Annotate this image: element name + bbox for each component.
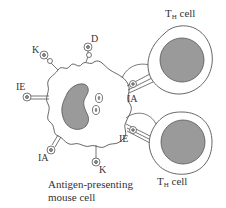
th-cell-top-nucleus <box>160 38 204 82</box>
apc-caption-line1: Antigen-presenting <box>48 178 133 191</box>
th-cell-top-label: TH cell <box>165 8 195 21</box>
label-ie-left: IE <box>16 82 25 92</box>
mhc-d-top <box>84 43 92 62</box>
label-k-top: K <box>32 45 39 55</box>
label-ia-left: IA <box>38 153 49 163</box>
label-k-bottom: K <box>99 165 106 175</box>
th-cell-bottom-label: TH cell <box>157 176 187 189</box>
mhc-k-bottom <box>92 145 100 166</box>
label-d-top: D <box>91 34 98 44</box>
diagram-canvas <box>0 0 226 208</box>
mhc-k-top <box>40 51 58 70</box>
apc-caption-line2: mouse cell <box>48 191 133 204</box>
mhc-ie-left <box>23 93 49 101</box>
th-cell-bottom-nucleus <box>161 120 205 164</box>
label-ia-right: IA <box>127 94 138 104</box>
apc-caption: Antigen-presenting mouse cell <box>48 178 133 204</box>
mhc-ia-left <box>47 135 61 154</box>
label-ie-right: IE <box>119 134 128 144</box>
